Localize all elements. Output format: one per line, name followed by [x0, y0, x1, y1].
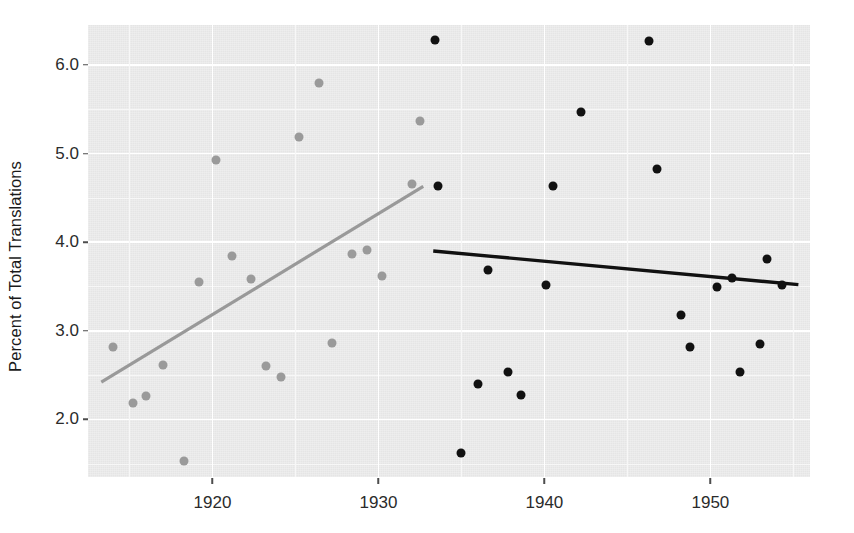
x-axis: 1920193019401950 [0, 477, 854, 533]
data-point [211, 155, 220, 164]
trendlines [88, 25, 810, 477]
y-tick-label: 4.0 [33, 232, 79, 252]
data-point [542, 280, 551, 289]
y-tick-label: 3.0 [33, 321, 79, 341]
y-tick-label: 2.0 [33, 409, 79, 429]
data-point [276, 372, 285, 381]
data-point [503, 368, 512, 377]
data-point [576, 107, 585, 116]
data-point [377, 271, 386, 280]
data-point [713, 283, 722, 292]
x-tick-label: 1940 [526, 493, 564, 513]
y-axis: 2.03.04.05.06.0 [32, 0, 88, 533]
data-point [777, 280, 786, 289]
data-point [180, 457, 189, 466]
data-point [457, 449, 466, 458]
x-tick-mark [212, 478, 214, 484]
y-tick-label: 6.0 [33, 55, 79, 75]
data-point [128, 398, 137, 407]
data-point [195, 278, 204, 287]
data-point [314, 79, 323, 88]
data-point [756, 340, 765, 349]
data-point [261, 362, 270, 371]
y-tick-label: 5.0 [33, 144, 79, 164]
x-tick-label: 1950 [691, 493, 729, 513]
x-tick-mark [710, 478, 712, 484]
x-tick-label: 1930 [360, 493, 398, 513]
data-point [228, 252, 237, 261]
y-axis-title: Percent of Total Translations [0, 0, 30, 533]
scatter-chart: Percent of Total Translations 2.03.04.05… [0, 0, 854, 533]
plot-panel [88, 25, 810, 477]
data-point [548, 182, 557, 191]
x-tick-label: 1920 [194, 493, 232, 513]
x-tick-mark [378, 478, 380, 484]
x-tick-mark [544, 478, 546, 484]
data-point [686, 342, 695, 351]
data-point [517, 391, 526, 400]
data-point [158, 361, 167, 370]
data-point [362, 246, 371, 255]
data-point [327, 339, 336, 348]
data-point [736, 367, 745, 376]
data-point [645, 36, 654, 45]
trendline-early-period [101, 186, 423, 382]
data-point [142, 392, 151, 401]
data-point [246, 275, 255, 284]
data-point [294, 132, 303, 141]
data-point [415, 116, 424, 125]
data-point [407, 179, 416, 188]
data-point [653, 165, 662, 174]
data-point [434, 182, 443, 191]
data-point [108, 342, 117, 351]
data-point [762, 254, 771, 263]
data-point [484, 266, 493, 275]
data-point [474, 379, 483, 388]
data-point [676, 310, 685, 319]
data-point [347, 249, 356, 258]
data-point [430, 36, 439, 45]
data-point [727, 273, 736, 282]
